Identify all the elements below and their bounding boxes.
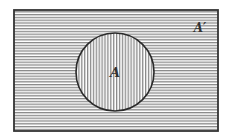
set-a-label: A <box>108 65 120 80</box>
venn-diagram: A A′ <box>0 0 230 140</box>
complement-label: A′ <box>193 21 207 35</box>
